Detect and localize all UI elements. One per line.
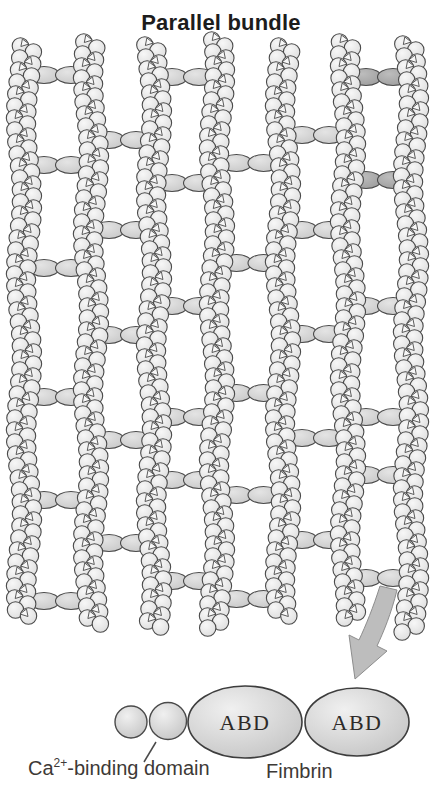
actin-filament bbox=[199, 32, 234, 636]
actin-filament bbox=[136, 37, 171, 635]
parallel-bundle-figure: ABDABD Parallel bundle Ca2+-binding doma… bbox=[0, 0, 442, 798]
ca-binding-domain-shape bbox=[150, 703, 187, 740]
ca-label-superscript: 2+ bbox=[54, 756, 68, 770]
actin-filament bbox=[393, 36, 428, 640]
fimbrin-label: Fimbrin bbox=[266, 760, 333, 783]
ca-label-prefix: Ca bbox=[28, 757, 54, 779]
bundle-diagram: ABDABD bbox=[0, 0, 442, 798]
figure-title: Parallel bundle bbox=[0, 10, 442, 36]
ca-label-suffix: -binding domain bbox=[67, 757, 209, 779]
actin-filament bbox=[6, 38, 41, 624]
ca-binding-domain-label: Ca2+-binding domain bbox=[28, 757, 210, 780]
abd-domain-label: ABD bbox=[220, 710, 271, 735]
ca-binding-domain-shape bbox=[115, 706, 147, 738]
fimbrin-molecule: ABDABD bbox=[115, 686, 409, 762]
abd-domain-label: ABD bbox=[332, 710, 383, 735]
actin-filament bbox=[265, 38, 300, 624]
actin-filament bbox=[330, 34, 365, 626]
